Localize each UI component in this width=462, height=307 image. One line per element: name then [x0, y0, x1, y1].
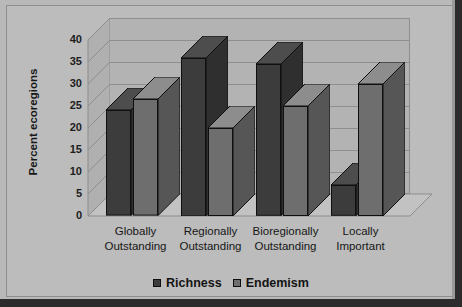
legend-item-endemism[interactable]: Endemism: [233, 276, 309, 290]
category-label-line: Important: [301, 239, 421, 254]
bar-front-face: [331, 186, 355, 216]
chart-figure: 0510152025303540 Percent ecoregions Glob…: [0, 0, 462, 307]
bar-side-face: [383, 62, 405, 216]
category-label-line: Locally: [301, 224, 421, 239]
legend-label: Endemism: [246, 276, 309, 290]
bar-endemism-2: [283, 84, 330, 216]
chart-legend: RichnessEndemism: [0, 276, 462, 290]
y-tick-label: 20: [56, 121, 82, 133]
bar-endemism-1: [208, 106, 255, 216]
plot-area: 0510152025303540 Percent ecoregions Glob…: [0, 0, 462, 307]
bar-front-face: [208, 129, 232, 216]
bar-side-face: [308, 84, 330, 216]
bar-side-face: [158, 77, 180, 216]
y-axis-title: Percent ecoregions: [27, 42, 39, 202]
category-label: LocallyImportant: [301, 224, 421, 254]
y-tick-label: 40: [56, 33, 82, 45]
y-tick-label: 35: [56, 55, 82, 67]
bar-endemism-0: [133, 77, 180, 216]
y-tick-label: 25: [56, 99, 82, 111]
bar-front-face: [358, 85, 382, 216]
bar-front-face: [256, 65, 280, 216]
y-tick-label: 15: [56, 143, 82, 155]
bar-front-face: [106, 111, 130, 216]
bar-front-face: [283, 107, 307, 216]
legend-item-richness[interactable]: Richness: [153, 276, 222, 290]
bar-endemism-3: [358, 62, 405, 216]
bar-front-face: [133, 100, 157, 216]
y-tick-label: 30: [56, 77, 82, 89]
bar-front-face: [181, 58, 205, 215]
y-tick-label: 0: [56, 209, 82, 221]
gridline: [110, 40, 410, 41]
legend-swatch-icon: [153, 279, 161, 287]
y-tick-label: 5: [56, 187, 82, 199]
gridline: [110, 18, 410, 19]
y-tick-label: 10: [56, 165, 82, 177]
legend-swatch-icon: [233, 279, 241, 287]
legend-label: Richness: [166, 276, 222, 290]
